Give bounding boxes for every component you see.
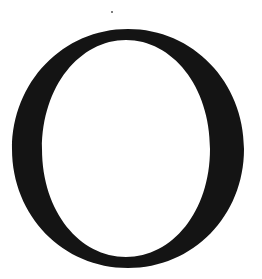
image-canvas: O: [0, 0, 262, 279]
speck-dot: [111, 11, 113, 13]
letter-o-graphic: [0, 0, 262, 279]
